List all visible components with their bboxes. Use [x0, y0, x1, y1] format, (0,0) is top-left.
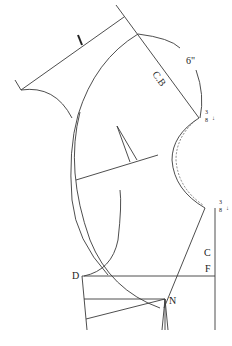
label-6in: 6" — [186, 55, 195, 66]
fraction-bottom-den: 8 — [219, 207, 222, 213]
side-seam — [164, 208, 205, 308]
shoulder-end-tick — [15, 80, 21, 90]
label-cb: C.B — [150, 69, 168, 89]
arrow-down-icon: ↓ — [212, 115, 215, 121]
armhole-dashed — [176, 120, 203, 205]
arrow-down-icon: ↓ — [226, 205, 229, 211]
left-vertical — [82, 276, 87, 330]
n-diagonal — [86, 299, 165, 319]
shoulder-line — [21, 17, 124, 90]
label-c: C — [204, 247, 211, 258]
pattern-diagram: 6" C.B 3 8 ↓ 3 8 ↓ C F D N — [0, 0, 232, 346]
label-d: D — [72, 270, 79, 281]
arc-6in-upper — [138, 34, 180, 48]
inner-curve — [74, 112, 160, 308]
notch-mark — [78, 35, 82, 45]
label-f: F — [205, 263, 211, 274]
label-n: N — [169, 295, 176, 306]
armhole-curve — [172, 118, 205, 208]
fraction-bottom-num: 3 — [219, 199, 222, 205]
arc-6in-lower — [196, 70, 202, 118]
mid-line — [76, 155, 158, 180]
neck-curve-left — [21, 89, 72, 118]
outer-curve — [71, 34, 138, 275]
fraction-top-den: 8 — [205, 117, 208, 123]
fraction-top-num: 3 — [205, 109, 208, 115]
